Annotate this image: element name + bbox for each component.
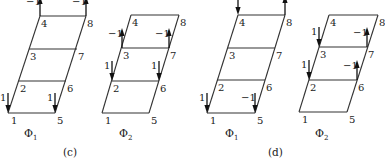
node-label: 6 [67, 83, 73, 94]
node-label: 7 [170, 50, 176, 61]
node-label: 7 [276, 50, 282, 61]
node-label: 5 [151, 115, 157, 126]
node-label: 2 [310, 82, 316, 93]
node-label: 1 [302, 114, 308, 125]
mode-label: Φ1 [225, 127, 239, 142]
load-value-label: 1 [104, 60, 110, 71]
load-value-label: 1 [47, 92, 53, 103]
node-label: 4 [132, 17, 138, 28]
panel-c: 48372615−1−111Φ148372615−1−111Φ2(c) [0, 0, 186, 158]
load-arrow-down-icon: 1 [0, 92, 11, 113]
node-label: 5 [57, 115, 63, 126]
panel-caption: (d) [268, 146, 283, 158]
node-label: 4 [330, 17, 336, 28]
load-value-label: −1 [343, 60, 358, 71]
load-value-label: −1 [26, 0, 41, 7]
node-label: 2 [218, 82, 224, 93]
load-arrow-down-icon [235, 0, 240, 15]
load-arrow-up-icon: −1 [343, 60, 360, 80]
node-label: 3 [123, 50, 129, 61]
load-arrow-up-icon: −1 [353, 27, 370, 47]
node-label: 1 [105, 115, 111, 126]
panel-d: 483726151−1Φ1483726151−11−1Φ2(d) [199, 0, 385, 158]
node-label: 1 [210, 115, 216, 126]
node-label: 6 [358, 82, 364, 93]
node-label: 8 [87, 18, 93, 29]
left-column-edge [8, 16, 40, 113]
node-label: 7 [78, 51, 84, 62]
mode-shape-phi1: 483726151−1Φ1 [199, 0, 292, 142]
load-value-label: 1 [151, 60, 157, 71]
load-arrow-up-icon: −1 [155, 28, 172, 48]
load-arrow-down-icon: 1 [47, 92, 58, 113]
load-value-label: 1 [301, 59, 307, 70]
node-label: 4 [41, 18, 47, 29]
load-arrow-down-icon: 1 [151, 60, 162, 81]
node-label: 3 [229, 50, 235, 61]
node-label: 6 [266, 82, 272, 93]
node-label: 4 [239, 17, 245, 28]
load-value-label: −1 [241, 92, 256, 103]
load-arrow-down-icon: 1 [104, 60, 115, 81]
load-arrow-down-icon: 1 [301, 59, 312, 80]
node-label: 3 [30, 51, 36, 62]
load-value-label: −1 [72, 0, 87, 7]
load-value-label: −1 [353, 27, 368, 38]
load-arrow-down-icon: −1 [241, 92, 258, 113]
node-label: 8 [180, 17, 186, 28]
node-label: 2 [113, 83, 119, 94]
load-value-label: 1 [311, 26, 317, 37]
panel-caption: (c) [63, 146, 77, 158]
mode-shape-phi2: 483726151−11−1Φ2 [299, 15, 385, 142]
left-column-edge [207, 15, 238, 113]
load-arrow-down-icon: 1 [311, 26, 322, 47]
node-label: 3 [320, 49, 326, 60]
node-label: 7 [368, 49, 374, 60]
load-arrow-up-icon: −1 [108, 28, 125, 48]
mode-label: Φ1 [24, 127, 38, 142]
load-arrow-down-icon: 1 [199, 92, 210, 113]
mode-shape-figure: 48372615−1−111Φ148372615−1−111Φ2(c)48372… [0, 0, 385, 160]
load-value-label: −1 [155, 28, 170, 39]
node-label: 6 [160, 83, 166, 94]
load-arrow-up-icon: −1 [72, 0, 89, 16]
mode-label: Φ2 [119, 127, 133, 142]
right-column-edge [55, 16, 86, 113]
load-value-label: 1 [0, 92, 6, 103]
right-column-edge [255, 15, 285, 113]
node-label: 2 [20, 83, 26, 94]
node-label: 5 [349, 114, 355, 125]
mode-label: Φ2 [315, 127, 329, 142]
node-label: 5 [257, 115, 263, 126]
load-value-label: −1 [108, 28, 123, 39]
load-arrow-up-icon [282, 0, 287, 15]
mode-shape-phi1: 48372615−1−111Φ1 [0, 0, 93, 142]
node-label: 8 [379, 17, 385, 28]
mode-shape-phi2: 48372615−1−111Φ2 [102, 15, 186, 142]
load-value-label: 1 [199, 92, 205, 103]
load-arrow-up-icon: −1 [26, 0, 43, 16]
node-label: 1 [11, 115, 17, 126]
node-label: 8 [286, 17, 292, 28]
